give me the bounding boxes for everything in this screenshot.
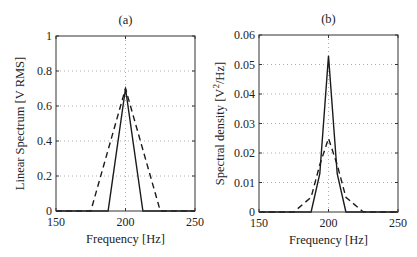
y-tick-label: 0.03 xyxy=(234,117,255,131)
y-tick-label: 0.6 xyxy=(37,99,52,113)
y-tick-label: 0.2 xyxy=(37,169,52,183)
x-tick-label: 200 xyxy=(320,216,338,230)
y-tick-label: 0.05 xyxy=(234,58,255,72)
figure: 00.20.40.60.81150200250(a)Frequency [Hz]… xyxy=(0,0,417,257)
y-axis-label: Linear Spectrum [V RMS] xyxy=(13,57,27,190)
x-tick-label: 250 xyxy=(186,215,204,229)
grid xyxy=(56,36,195,211)
x-tick-label: 250 xyxy=(389,216,407,230)
x-axis-label: Frequency [Hz] xyxy=(289,233,368,247)
y-tick-label: 0.02 xyxy=(234,146,255,160)
x-tick-label: 200 xyxy=(117,215,135,229)
y-tick-label: 0.8 xyxy=(37,64,52,78)
y-tick-label: 1 xyxy=(46,29,52,43)
chart-b: 00.010.020.030.040.050.06150200250(b)Fre… xyxy=(211,12,407,247)
y-tick-label: 0.04 xyxy=(234,87,255,101)
y-tick-label: 0.01 xyxy=(234,176,255,190)
chart-title: (a) xyxy=(119,13,133,27)
y-tick-label: 0.06 xyxy=(234,28,255,42)
x-axis-label: Frequency [Hz] xyxy=(86,232,165,246)
y-tick-label: 0.4 xyxy=(37,134,52,148)
y-axis-label: Spectral density [V2/Hz] xyxy=(211,62,227,185)
x-tick-label: 150 xyxy=(250,216,268,230)
chart-a: 00.20.40.60.81150200250(a)Frequency [Hz]… xyxy=(13,13,204,246)
chart-title: (b) xyxy=(321,12,336,26)
x-tick-label: 150 xyxy=(47,215,65,229)
